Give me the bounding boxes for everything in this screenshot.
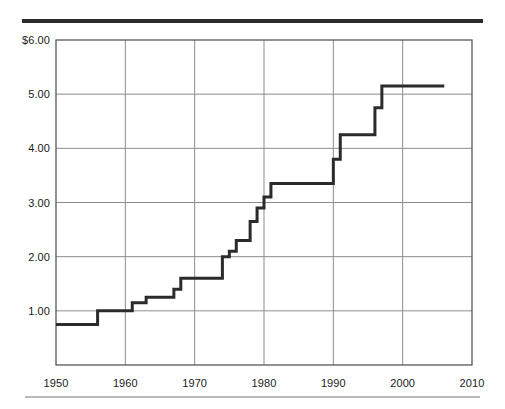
y-axis-tick-label: 4.00 bbox=[6, 143, 50, 154]
x-axis-tick-label: 2000 bbox=[390, 378, 415, 389]
step-chart-plot bbox=[0, 0, 505, 409]
x-axis-tick-label: 1990 bbox=[321, 378, 346, 389]
y-axis-tick-label: 1.00 bbox=[6, 305, 50, 316]
bottom-divider-rule bbox=[25, 396, 480, 398]
chart-figure: $6.005.004.003.002.001.00 19501960197019… bbox=[0, 0, 505, 409]
step-line-minimum-wage bbox=[56, 86, 444, 324]
y-axis-tick-label: 5.00 bbox=[6, 89, 50, 100]
y-axis-tick-label: $6.00 bbox=[6, 35, 50, 46]
x-axis-tick-label: 1970 bbox=[182, 378, 207, 389]
y-axis-tick-label: 3.00 bbox=[6, 197, 50, 208]
y-axis-tick-label: 2.00 bbox=[6, 251, 50, 262]
x-axis-tick-label: 1980 bbox=[252, 378, 277, 389]
x-axis-tick-label: 1960 bbox=[113, 378, 138, 389]
x-axis-tick-label: 1950 bbox=[44, 378, 69, 389]
data-series-group bbox=[56, 86, 444, 324]
x-axis-tick-label: 2010 bbox=[460, 378, 485, 389]
